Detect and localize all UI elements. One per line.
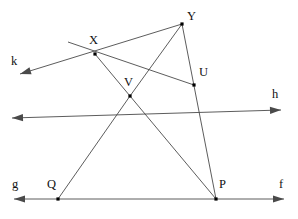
point-V <box>128 94 131 97</box>
ray-through-V-and-U-to-h-arrow-end <box>270 107 281 114</box>
line-label-f: f <box>279 178 283 191</box>
line-label-h: h <box>272 88 278 101</box>
segment-layer <box>12 24 284 203</box>
point-layer <box>56 22 217 200</box>
segment-V-to-P <box>130 96 216 199</box>
point-label-X: X <box>89 34 98 47</box>
point-label-V: V <box>124 76 133 89</box>
point-label-Q: Q <box>47 178 56 191</box>
segment-Y-to-V <box>130 24 182 96</box>
point-Q <box>56 197 59 200</box>
diagram-canvas <box>0 0 298 219</box>
point-label-Y: Y <box>187 10 196 23</box>
point-X <box>93 52 96 55</box>
ray-k-through-X-to-Y <box>20 24 182 74</box>
line-g-f-horizontal-arrow-end <box>273 195 284 202</box>
segment-Y-through-U-to-P <box>182 24 216 199</box>
line-g-f-horizontal-arrow-start <box>14 195 25 202</box>
point-P <box>214 197 217 200</box>
ray-k-through-X-to-Y-arrow-start <box>20 67 32 74</box>
ray-through-V-and-U-to-h <box>12 110 281 118</box>
ray-through-V-and-U-to-h-arrow-start <box>12 114 23 121</box>
point-label-U: U <box>199 66 208 79</box>
point-U <box>192 83 195 86</box>
point-Y <box>180 22 183 25</box>
point-label-P: P <box>219 178 226 191</box>
geometry-figure: XYUVQPkhgf <box>0 0 298 219</box>
segment-V-to-Q <box>58 96 130 199</box>
line-label-g: g <box>12 178 18 191</box>
line-label-k: k <box>11 55 17 68</box>
